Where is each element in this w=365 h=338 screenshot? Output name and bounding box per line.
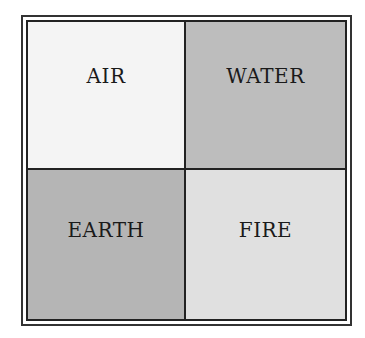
- cell-water: WATER: [186, 22, 345, 170]
- diagram-frame: AIR WATER EARTH FIRE: [21, 15, 352, 326]
- cell-fire: FIRE: [186, 170, 345, 319]
- cell-air: AIR: [28, 22, 186, 170]
- elements-grid: AIR WATER EARTH FIRE: [26, 20, 347, 321]
- cell-earth: EARTH: [28, 170, 186, 319]
